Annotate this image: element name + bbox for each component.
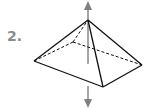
axis-down-arrow-icon [84, 99, 92, 108]
pyramid-diagram [0, 0, 155, 112]
axis-up-arrow-icon [84, 1, 92, 10]
